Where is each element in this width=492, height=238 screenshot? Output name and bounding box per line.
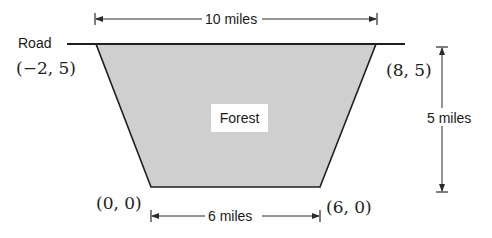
forest-label: Forest [211, 104, 268, 132]
vertex-label-bottom-left: (0, 0) [96, 195, 142, 212]
top-width-label: 10 miles [203, 12, 259, 26]
trapezoid-forest-diagram: Road (−2, 5) (8, 5) (0, 0) (6, 0) Forest… [0, 0, 492, 238]
height-label: 5 miles [425, 111, 473, 125]
road-label: Road [18, 36, 51, 50]
forest-label-text: Forest [220, 110, 260, 126]
bottom-width-label: 6 miles [206, 209, 254, 223]
vertex-label-top-left: (−2, 5) [16, 60, 76, 77]
vertex-label-bottom-right: (6, 0) [326, 199, 372, 216]
vertex-label-top-right: (8, 5) [386, 62, 432, 79]
